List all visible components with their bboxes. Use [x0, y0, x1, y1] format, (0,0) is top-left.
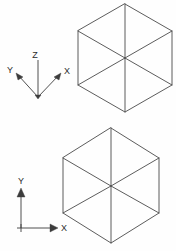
hexagon-edge-lower-right [111, 186, 159, 213]
cad-drawing-canvas: Z Y X Y X [0, 0, 176, 251]
drawing-surface: Z Y X Y X [0, 0, 176, 251]
ucs-origin-marker-icon [35, 95, 41, 99]
top-isometric-view [78, 4, 172, 112]
hexagon-edge-lower-right [125, 58, 172, 85]
x-axis-arrowhead-icon [50, 224, 58, 232]
y-axis-arrowhead-icon [17, 188, 25, 197]
top-ucs-icon[interactable]: Z Y X [7, 50, 70, 99]
hexagon-edge-lower-left [63, 186, 111, 213]
hexagon-edge-upper-right [111, 158, 159, 186]
x-axis-label: X [64, 66, 70, 76]
x-axis-label: X [61, 223, 67, 233]
hexagon-edge-upper-left [78, 31, 125, 58]
hexagon-edge-upper-left [63, 158, 111, 186]
y-axis-label: Y [7, 65, 13, 75]
z-axis-label: Z [32, 50, 38, 60]
bottom-ucs-icon[interactable]: Y X [17, 176, 67, 233]
y-axis-label: Y [18, 176, 24, 186]
hexagon-edge-lower-left [78, 58, 125, 85]
hexagon-edge-upper-right [125, 31, 172, 58]
bottom-isometric-view [63, 128, 159, 243]
